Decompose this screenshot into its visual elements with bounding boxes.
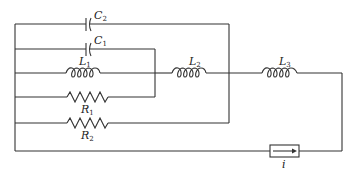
inductor-l2: L2 xyxy=(155,55,262,77)
label-i: i xyxy=(282,158,286,171)
label-l2: L2 xyxy=(188,55,201,69)
capacitor-c2: C2 xyxy=(15,9,229,31)
capacitor-c1: C1 xyxy=(15,34,155,56)
resistor-r2: R2 xyxy=(15,118,229,143)
circuit-diagram: C2 C1 L1 L2 L3 R1 xyxy=(0,0,354,172)
inductor-l3: L3 xyxy=(262,55,342,77)
label-r1: R1 xyxy=(80,103,94,117)
inductor-l1: L1 xyxy=(15,55,155,77)
label-c1: C1 xyxy=(94,34,107,48)
current-source-i: i xyxy=(15,145,342,171)
label-l3: L3 xyxy=(278,55,291,69)
label-r2: R2 xyxy=(80,129,94,143)
label-c2: C2 xyxy=(94,9,107,23)
arrow-right-icon xyxy=(292,149,297,154)
resistor-r1: R1 xyxy=(15,92,155,117)
label-l1: L1 xyxy=(78,55,91,69)
